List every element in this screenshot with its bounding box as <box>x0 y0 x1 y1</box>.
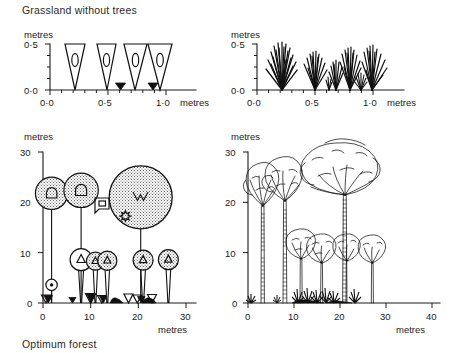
bl-xtick-30: 30 <box>180 311 191 322</box>
bl-xtick-0: 0 <box>40 311 45 322</box>
realistic-litter <box>326 301 352 303</box>
grass-tuft <box>266 42 297 90</box>
bl-ytick-20: 20 <box>20 197 31 208</box>
tl-xtick-05: 0·5 <box>98 97 112 108</box>
tr-ytick-05: 0·5 <box>231 39 245 50</box>
grass-tuft <box>354 73 367 90</box>
realistic-herb <box>320 288 332 303</box>
tl-ytick-05: 0·5 <box>24 39 38 50</box>
tl-x-axis-title: metres <box>180 97 209 108</box>
grass-tuft-group <box>266 42 387 90</box>
bl-x-axis-title: metres <box>158 324 187 335</box>
symbol-herb-open <box>124 294 133 303</box>
realistic-understorey-tree-group <box>286 229 386 303</box>
br-xtick-10: 10 <box>288 311 299 322</box>
symbol-flag-marker <box>95 198 109 213</box>
bl-ytick-0: 0 <box>27 298 32 309</box>
tr-xtick-05: 0·5 <box>305 97 319 108</box>
br-xtick-20: 20 <box>334 311 345 322</box>
bl-ytick-30: 30 <box>20 147 31 158</box>
symbol-tussock <box>97 44 116 90</box>
tr-x-axis-title: metres <box>387 97 416 108</box>
tl-ytick-00: 0·0 <box>24 85 38 96</box>
symbol-litter-group <box>110 298 156 303</box>
panel-grassland-realistic: metres 0·5 0·0 0·0 0·5 1·0 metres <box>231 29 416 108</box>
grass-tuft <box>340 47 361 90</box>
symbol-understorey-tree <box>158 250 178 303</box>
realistic-understorey-tree <box>286 229 316 303</box>
tr-xtick-00: 0·0 <box>247 97 261 108</box>
br-xtick-30: 30 <box>380 311 391 322</box>
panel-grassland-symbolic: metres 0·5 0·0 0·0 0·5 1·0 metres <box>24 29 209 108</box>
tr-ytick-00: 0·0 <box>231 85 245 96</box>
symbol-litter <box>110 298 123 303</box>
br-ytick-20: 20 <box>225 197 236 208</box>
realistic-canopy-tree <box>243 162 278 303</box>
br-y-axis-title: metres <box>231 131 260 142</box>
symbol-herb-solid <box>69 298 76 304</box>
bl-xtick-20: 20 <box>132 311 143 322</box>
br-ytick-30: 30 <box>225 147 236 158</box>
symbol-tussock <box>65 44 85 90</box>
symbol-canopy-tree <box>64 173 109 303</box>
symbol-ground-herb <box>148 83 158 90</box>
symbol-tussock <box>124 44 147 90</box>
panel-forest-realistic: metres 30 20 10 0 0 10 20 30 40 metres <box>225 131 440 335</box>
grass-tuft <box>304 51 327 90</box>
realistic-emergent-tree <box>300 139 380 303</box>
symbol-ground-herb <box>116 83 126 90</box>
tr-xtick-10: 1·0 <box>363 97 377 108</box>
tl-xtick-10: 1·0 <box>156 97 170 108</box>
bl-ytick-10: 10 <box>20 248 31 259</box>
tl-xtick-00: 0·0 <box>40 97 54 108</box>
bl-y-axis-title: metres <box>24 131 53 142</box>
realistic-understorey-tree <box>358 235 386 303</box>
br-ytick-0: 0 <box>232 298 237 309</box>
br-x-axis-title: metres <box>396 324 425 335</box>
realistic-herb <box>349 289 361 303</box>
br-xtick-0: 0 <box>245 311 250 322</box>
br-ytick-10: 10 <box>225 248 236 259</box>
panel-forest-symbolic: metres 30 20 10 0 0 10 20 30 metres <box>20 131 196 335</box>
symbol-emergent-tree <box>109 166 172 303</box>
bl-xtick-10: 10 <box>84 311 95 322</box>
realistic-herb <box>273 295 281 303</box>
br-xtick-40: 40 <box>426 311 437 322</box>
vegetation-profile-figure: metres 0·5 0·0 0·0 0·5 1·0 metres <box>0 0 462 353</box>
